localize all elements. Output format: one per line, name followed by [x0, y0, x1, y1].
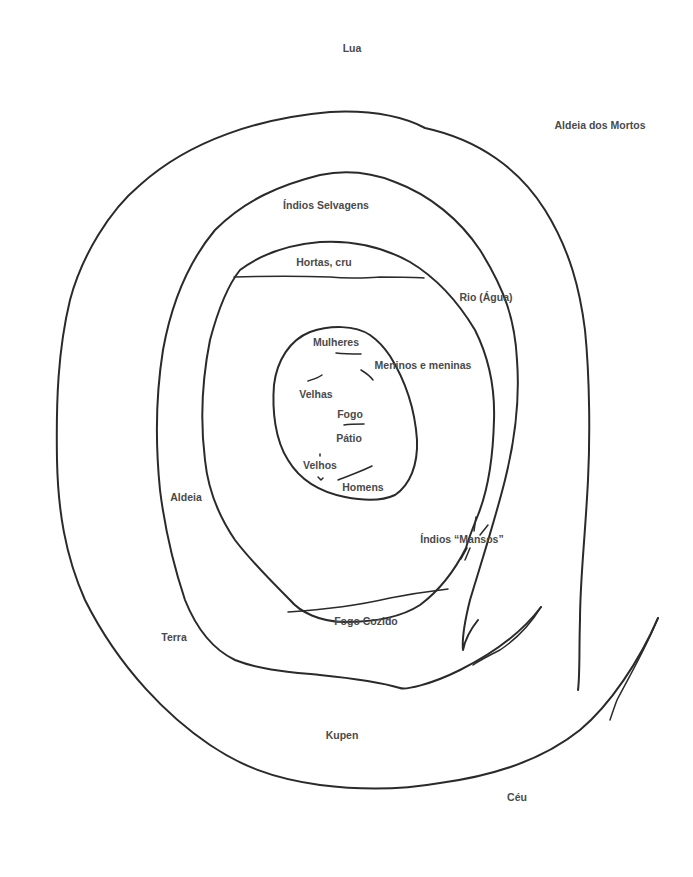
inner-dash-homens: [338, 466, 372, 480]
label-fogo: Fogo: [337, 409, 363, 420]
mansos-mark-1: [474, 517, 476, 531]
label-mulheres: Mulheres: [313, 337, 359, 348]
outer-ring-cross-stroke: [610, 618, 658, 720]
label-fogo-cozido: Fogo Cozido: [334, 616, 398, 627]
hortas-chord-line: [234, 276, 424, 278]
label-terra: Terra: [161, 632, 187, 643]
label-kupen: Kupen: [326, 730, 359, 741]
label-homens: Homens: [342, 482, 383, 493]
inner-dash-velhas: [308, 375, 322, 381]
label-indios-selvagens: Índios Selvagens: [283, 200, 369, 211]
label-indios-mansos: Índios “Mansos”: [420, 534, 503, 545]
label-velhas: Velhas: [299, 389, 332, 400]
cosmology-diagram: Lua Aldeia dos Mortos Índios Selvagens H…: [0, 0, 693, 877]
fogo-cozido-chord-line: [288, 589, 448, 612]
label-velhos: Velhos: [303, 460, 337, 471]
inner-dash-fogo: [344, 424, 364, 425]
label-aldeia: Aldeia: [170, 492, 202, 503]
second-ring: [157, 172, 541, 688]
label-ceu: Céu: [507, 792, 527, 803]
label-meninos-e-meninas: Meninos e meninas: [375, 360, 472, 371]
label-rio-agua: Rio (Água): [459, 292, 512, 303]
inner-dash-mulheres: [336, 353, 361, 354]
label-lua: Lua: [343, 43, 362, 54]
label-hortas-cru: Hortas, cru: [296, 257, 351, 268]
label-patio: Pátio: [336, 433, 362, 444]
outer-ring: [57, 112, 658, 789]
label-aldeia-dos-mortos: Aldeia dos Mortos: [554, 120, 645, 131]
inner-dot-velhos-bottom: [318, 477, 323, 480]
inner-dash-meninos: [361, 370, 373, 380]
